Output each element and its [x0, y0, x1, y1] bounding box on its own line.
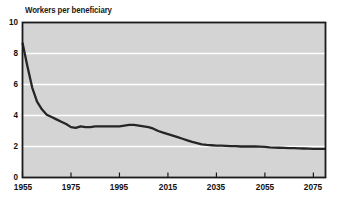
- plot-background: [23, 23, 326, 178]
- y-axis-tick-label: 8: [4, 48, 18, 58]
- y-axis-tick-label: 0: [4, 172, 18, 182]
- x-axis-tick-label: 2035: [201, 182, 232, 192]
- x-axis-tick-label: 2055: [249, 182, 280, 192]
- chart-plot-svg: [0, 0, 337, 208]
- x-axis-tick-label: 1995: [104, 182, 135, 192]
- y-axis-tick-label: 4: [4, 110, 18, 120]
- chart-figure: Workers per beneficiary 0246810 19551975…: [0, 0, 337, 208]
- y-axis-tick-label: 2: [4, 141, 18, 151]
- x-axis-tick-label: 1955: [7, 182, 38, 192]
- x-axis-tick-label: 2015: [152, 182, 183, 192]
- x-axis-tick-label: 2075: [298, 182, 329, 192]
- y-axis-tick-label: 10: [4, 17, 18, 27]
- x-axis-tick-label: 1975: [55, 182, 86, 192]
- y-axis-tick-label: 6: [4, 79, 18, 89]
